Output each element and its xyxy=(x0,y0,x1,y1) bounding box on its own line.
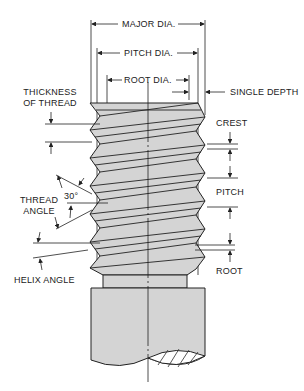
single-depth-label: SINGLE DEPTH xyxy=(230,87,298,97)
crest-label: CREST xyxy=(216,118,248,128)
thread-angle-label-2: ANGLE xyxy=(18,206,60,216)
helix-angle-label: HELIX ANGLE xyxy=(14,275,75,285)
thickness-label-1: THICKNESS xyxy=(22,87,78,97)
major-dia-label: MAJOR DIA. xyxy=(122,19,176,29)
root-dia-label: ROOT DIA. xyxy=(124,75,172,85)
thread-angle-label-1: THREAD xyxy=(18,195,60,205)
angle-value-label: 30° xyxy=(64,191,78,201)
neck xyxy=(103,275,187,288)
helix-angle-dimension xyxy=(33,232,100,270)
thickness-label-2: OF THREAD xyxy=(22,98,78,108)
pitch-label: PITCH xyxy=(216,187,244,197)
thread-body xyxy=(90,103,205,275)
root-label: ROOT xyxy=(216,266,243,276)
pitch-dia-label: PITCH DIA. xyxy=(124,48,173,58)
